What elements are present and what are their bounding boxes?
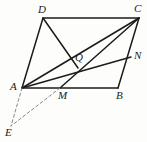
point-label-b: B — [116, 90, 123, 101]
segment-CM — [60, 18, 139, 88]
point-label-n: N — [134, 50, 141, 61]
point-label-e: E — [5, 127, 12, 138]
segments-layer — [11, 18, 139, 126]
point-label-a: A — [10, 81, 17, 92]
dashed-AE — [11, 88, 22, 126]
point-label-d: D — [38, 4, 46, 15]
geometry-figure: DCQNAMBE — [0, 0, 147, 142]
point-label-m: M — [58, 90, 67, 101]
geometry-canvas — [0, 0, 147, 142]
point-label-c: C — [134, 3, 141, 14]
segment-DQ — [43, 18, 78, 68]
point-label-q: Q — [75, 52, 83, 63]
dashed-ME — [11, 88, 60, 126]
